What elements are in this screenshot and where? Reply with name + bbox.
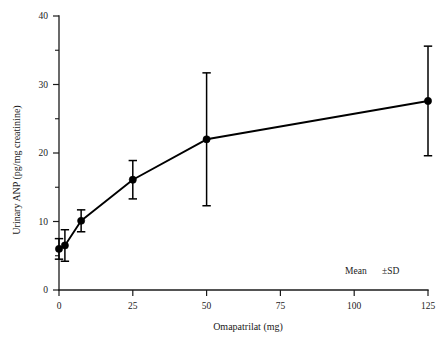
x-tick-label: 50	[202, 301, 212, 311]
data-point-marker	[424, 97, 431, 104]
x-axis-title: Omapatrilat (mg)	[213, 321, 283, 333]
y-axis-tick-labels: 0 10 20 30 40	[39, 11, 49, 295]
data-series-layer	[55, 46, 432, 261]
y-tick-label: 0	[43, 285, 48, 295]
x-tick-label: 25	[128, 301, 138, 311]
y-tick-label: 30	[39, 80, 49, 90]
x-tick-label: 125	[421, 301, 436, 311]
data-point-marker	[61, 242, 68, 249]
y-tick-label: 20	[39, 148, 49, 158]
x-tick-label: 0	[57, 301, 62, 311]
data-point-marker	[129, 176, 136, 183]
mean-sd-annotation: Mean ±SD	[345, 266, 399, 276]
y-axis-title: Urinary ANP (pg/mg creatinine)	[11, 105, 23, 234]
chart-figure: Urinary ANP (pg/mg creatinine) Omapatril…	[0, 0, 441, 343]
data-point-marker	[78, 217, 85, 224]
annotation-mean: Mean	[345, 266, 367, 276]
x-axis-tick-labels: 0 25 50 75 100 125	[57, 301, 436, 311]
x-tick-label: 100	[347, 301, 362, 311]
data-point-marker	[203, 136, 210, 143]
x-tick-label: 75	[276, 301, 286, 311]
x-axis-ticks	[59, 290, 428, 296]
y-tick-label: 10	[39, 217, 49, 227]
y-tick-label: 40	[39, 11, 49, 21]
annotation-sd: ±SD	[382, 266, 399, 276]
urinary-anp-line-chart: Urinary ANP (pg/mg creatinine) Omapatril…	[0, 0, 441, 343]
series-line	[59, 101, 428, 249]
